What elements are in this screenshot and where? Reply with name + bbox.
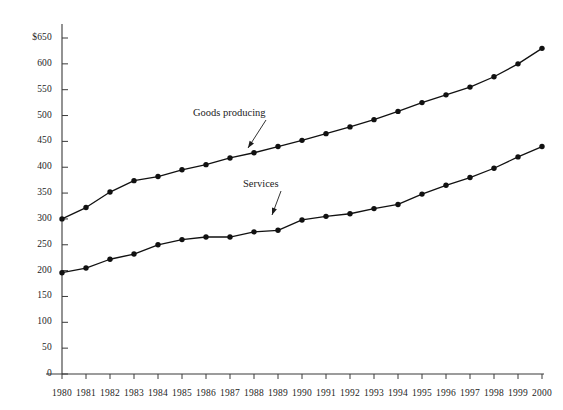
y-axis-tick-label: 350: [8, 187, 52, 197]
y-axis-tick-label: 200: [8, 265, 52, 275]
data-point-marker: [131, 178, 136, 183]
data-point-marker: [179, 237, 184, 242]
series-lines: [62, 48, 542, 272]
data-point-marker: [203, 234, 208, 239]
data-point-marker: [275, 228, 280, 233]
data-point-marker: [131, 251, 136, 256]
y-axis-tick-label: 450: [8, 135, 52, 145]
y-axis-tick-label: 150: [8, 290, 52, 300]
y-axis-tick-label: 300: [8, 213, 52, 223]
data-point-marker: [155, 242, 160, 247]
annotation-arrows: [248, 120, 281, 215]
data-point-marker: [395, 202, 400, 207]
series-line: [62, 48, 542, 219]
data-point-marker: [275, 144, 280, 149]
data-point-marker: [227, 234, 232, 239]
data-point-marker: [371, 206, 376, 211]
data-point-marker: [59, 216, 64, 221]
y-axis-tick-label: $650: [8, 32, 52, 42]
y-axis-tick-label: 550: [8, 84, 52, 94]
y-axis-tick-label: 100: [8, 316, 52, 326]
data-point-marker: [443, 92, 448, 97]
data-point-marker: [59, 270, 64, 275]
x-axis-ticks: [62, 374, 542, 379]
chart-plot-area: [0, 0, 563, 410]
data-point-marker: [347, 124, 352, 129]
data-point-marker: [491, 74, 496, 79]
data-point-marker: [107, 189, 112, 194]
data-point-marker: [107, 257, 112, 262]
data-point-marker: [371, 117, 376, 122]
y-axis-ticks: [62, 38, 68, 374]
data-point-marker: [323, 214, 328, 219]
data-point-marker: [251, 229, 256, 234]
y-axis-tick-label: 250: [8, 239, 52, 249]
data-point-marker: [539, 46, 544, 51]
data-point-marker: [419, 191, 424, 196]
data-point-marker: [515, 154, 520, 159]
data-point-marker: [419, 100, 424, 105]
data-point-marker: [515, 61, 520, 66]
x-axis-tick-label: 2000: [525, 388, 559, 398]
data-point-marker: [443, 183, 448, 188]
annotation-arrow-head: [248, 141, 254, 148]
data-point-marker: [467, 175, 472, 180]
series-markers: [59, 46, 544, 276]
annotation-arrow-head: [272, 208, 277, 215]
data-point-marker: [539, 144, 544, 149]
data-point-marker: [155, 174, 160, 179]
data-point-marker: [347, 211, 352, 216]
y-axis-tick-label: 400: [8, 161, 52, 171]
data-point-marker: [491, 166, 496, 171]
y-axis-tick-label: 600: [8, 58, 52, 68]
series-annotation-label: Goods producing: [193, 107, 266, 118]
y-axis-tick-label: 0: [8, 368, 52, 378]
data-point-marker: [83, 205, 88, 210]
data-point-marker: [467, 84, 472, 89]
data-point-marker: [323, 131, 328, 136]
data-point-marker: [299, 138, 304, 143]
data-point-marker: [203, 162, 208, 167]
data-point-marker: [251, 150, 256, 155]
y-axis-tick-label: 500: [8, 110, 52, 120]
series-annotation-label: Services: [243, 178, 279, 189]
y-axis-tick-label: 50: [8, 342, 52, 352]
data-point-marker: [395, 109, 400, 114]
data-point-marker: [83, 265, 88, 270]
line-chart: 050100150200250300350400450500550600$650…: [0, 0, 563, 410]
data-point-marker: [179, 167, 184, 172]
data-point-marker: [227, 155, 232, 160]
data-point-marker: [299, 217, 304, 222]
